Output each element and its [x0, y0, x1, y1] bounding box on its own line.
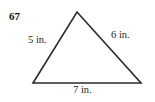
side-label-right: 6 in. — [111, 29, 130, 40]
geometry-figure: 67 5 in. 6 in. 7 in. — [0, 0, 155, 102]
side-label-left: 5 in. — [28, 34, 47, 45]
side-label-base: 7 in. — [73, 84, 92, 95]
triangle-outline — [33, 12, 141, 83]
